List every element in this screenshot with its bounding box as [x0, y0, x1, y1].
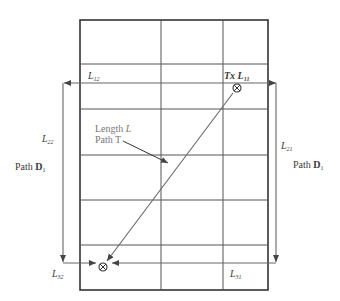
path-t-direct	[107, 93, 233, 261]
propagation-diagram: Tx L11 L12 L22 L21 L32 L31 Path D1 Path …	[0, 0, 340, 301]
label-path-d1-right: Path D1	[293, 159, 324, 171]
label-path-t: Path T	[95, 134, 121, 145]
path-d1-left	[63, 83, 236, 263]
label-path-d1-left: Path D1	[15, 161, 46, 173]
label-length-l: Length L	[95, 123, 132, 134]
label-l12: L12	[87, 70, 100, 82]
label-l22: L22	[41, 133, 54, 145]
tx-label: Tx L11	[224, 70, 249, 82]
path-d1-right	[112, 83, 276, 263]
label-l31: L31	[229, 268, 242, 280]
label-l21: L21	[280, 140, 293, 152]
receiver-marker	[99, 263, 107, 271]
transmitter-marker	[233, 84, 241, 92]
label-l32: L32	[51, 268, 64, 280]
floor-grid	[80, 20, 268, 290]
